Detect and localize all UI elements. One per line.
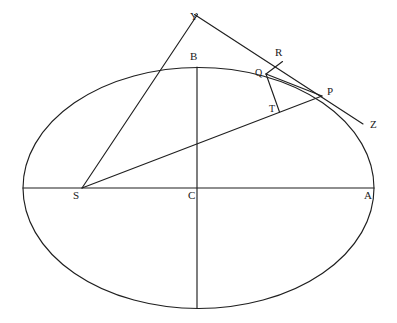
point-label-Q: Q [255, 68, 262, 78]
point-label-A: A [364, 190, 372, 201]
point-label-T: T [269, 104, 275, 114]
segment-qr [266, 62, 283, 75]
point-label-P: P [327, 86, 333, 97]
point-label-Z: Z [370, 119, 377, 130]
line-sy-segment [82, 15, 198, 189]
segment-qp [266, 74, 322, 96]
tangent-yz-segment [195, 15, 364, 125]
geometry-figure: Y B R Q P T Z S C A [0, 0, 397, 323]
point-label-B: B [190, 51, 197, 62]
point-label-Y: Y [190, 11, 198, 22]
point-label-R: R [275, 47, 282, 58]
geometry-canvas [0, 0, 397, 323]
point-label-S: S [73, 190, 79, 201]
focal-radius-sp-segment [82, 96, 322, 188]
point-label-C: C [188, 190, 195, 201]
